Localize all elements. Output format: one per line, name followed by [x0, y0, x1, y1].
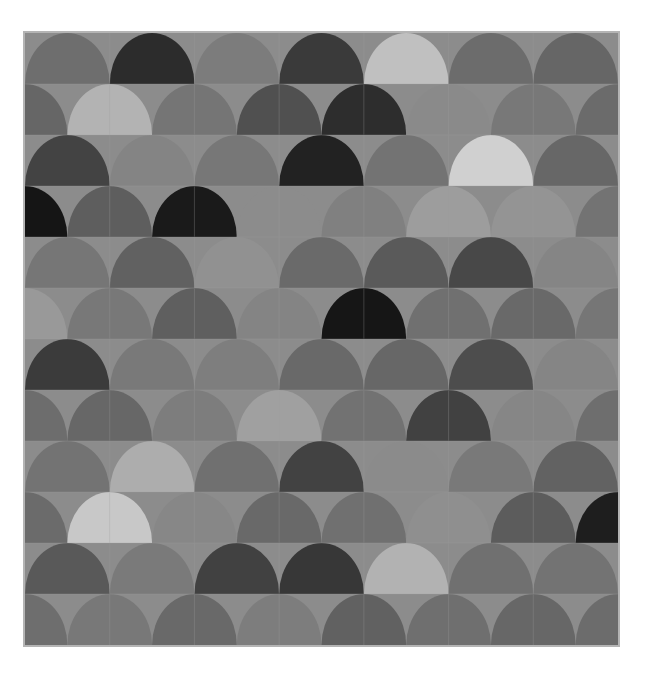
- scale-tile: [25, 492, 67, 543]
- scale-tile: [364, 339, 449, 390]
- scale-tile: [449, 543, 534, 594]
- plot-axes-area: [25, 33, 618, 645]
- scale-tile: [110, 339, 195, 390]
- scale-tile: [194, 543, 279, 594]
- scale-tile: [576, 594, 618, 645]
- scale-tile: [25, 339, 110, 390]
- scale-tile: [576, 390, 618, 441]
- scale-tile: [25, 237, 110, 288]
- scale-tile: [576, 492, 618, 543]
- scale-tile: [110, 135, 195, 186]
- scale-tile: [279, 33, 364, 84]
- scale-tile: [279, 135, 364, 186]
- scale-tile: [110, 237, 195, 288]
- scale-tile: [25, 441, 110, 492]
- scale-tile: [576, 84, 618, 135]
- scale-tile: [279, 543, 364, 594]
- scale-tile: [364, 33, 449, 84]
- scale-tile: [364, 135, 449, 186]
- scale-tile: [533, 135, 618, 186]
- scale-tile: [110, 441, 195, 492]
- scale-tile: [449, 135, 534, 186]
- scale-tile: [533, 441, 618, 492]
- scale-tile: [364, 237, 449, 288]
- scale-tile: [194, 33, 279, 84]
- scale-tile: [194, 339, 279, 390]
- scale-tile: [449, 237, 534, 288]
- scale-tile: [25, 135, 110, 186]
- scale-tile: [576, 186, 618, 237]
- scale-tile: [25, 543, 110, 594]
- scale-tile: [279, 237, 364, 288]
- scale-tile: [25, 594, 67, 645]
- scale-tile: [533, 543, 618, 594]
- scale-tile: [110, 543, 195, 594]
- figure-canvas: [0, 0, 654, 681]
- scale-tile: [25, 288, 67, 339]
- scale-tile: [279, 441, 364, 492]
- scale-tile: [25, 186, 67, 237]
- scale-tile: [194, 237, 279, 288]
- scale-tile: [364, 441, 449, 492]
- scale-tile: [194, 441, 279, 492]
- scale-tile: [25, 390, 67, 441]
- scale-tile: [194, 135, 279, 186]
- scallop-pattern-plot: [25, 33, 618, 645]
- scale-tile: [449, 441, 534, 492]
- scale-tile: [110, 33, 195, 84]
- scale-tile: [25, 33, 110, 84]
- scale-tile: [25, 84, 67, 135]
- scale-tile: [449, 339, 534, 390]
- scale-tile: [533, 237, 618, 288]
- scale-tile: [533, 339, 618, 390]
- scale-tile: [364, 543, 449, 594]
- scale-tile: [279, 339, 364, 390]
- scale-tile: [449, 33, 534, 84]
- scale-tile: [576, 288, 618, 339]
- scale-tile: [533, 33, 618, 84]
